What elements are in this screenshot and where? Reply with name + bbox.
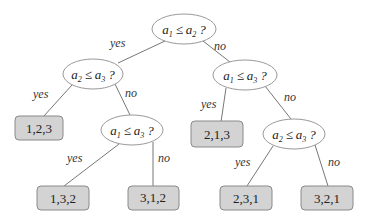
edge-label-yes: yes [32,87,49,101]
svg-text:3,2,1: 3,2,1 [314,191,340,206]
decision-node-right-no: a2≤a3? [263,119,325,149]
edge-rightno-leaf231 [247,146,273,186]
decision-node-left-no: a1≤a3? [101,115,163,145]
leaf-node: 2,1,3 [191,121,243,147]
edge-label-yes: yes [200,97,217,111]
edge-label-no: no [158,151,170,165]
leaf-node: 1,3,2 [37,186,89,210]
edge-rightno-leaf321 [315,145,328,186]
decision-tree-diagram: yes no yes no yes no yes no yes no a1≤a2… [0,0,368,223]
svg-text:3,1,2: 3,1,2 [140,190,166,205]
edge-label-no: no [328,155,340,169]
svg-text:2,1,3: 2,1,3 [204,127,230,142]
edge-right-leaf213 [221,88,226,122]
leaf-node: 1,2,3 [15,116,63,140]
edge-label-yes: yes [66,151,83,165]
edge-label-no: no [284,90,296,104]
svg-text:2,3,1: 2,3,1 [233,191,259,206]
decision-node-root: a1≤a2? [152,14,216,44]
edge-label-no: no [125,86,137,100]
decision-node-left: a2≤a3? [63,59,123,89]
edge-label-yes: yes [234,155,251,169]
leaf-node: 2,3,1 [220,186,272,210]
edge-label-yes: yes [109,36,126,50]
leaf-node: 3,1,2 [128,186,179,210]
decision-node-right: a1≤a3? [213,60,277,90]
leaf-node: 3,2,1 [301,186,353,210]
svg-text:1,2,3: 1,2,3 [26,121,52,136]
svg-text:1,3,2: 1,3,2 [50,191,76,206]
edge-label-no: no [214,39,226,53]
